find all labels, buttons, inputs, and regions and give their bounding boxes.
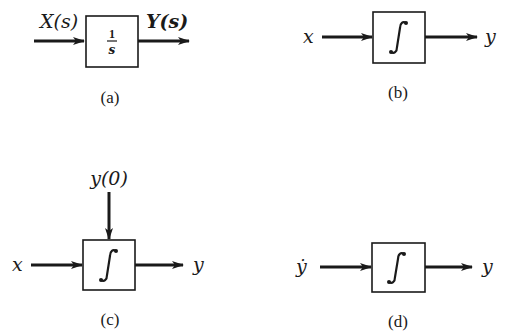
input-label: X(s): [38, 10, 78, 32]
output-label: y: [484, 25, 496, 47]
output-label: y: [481, 255, 493, 277]
output-label: y: [192, 253, 204, 275]
integral-icon: [391, 22, 406, 53]
diagram-d: ẏ y (d): [295, 243, 493, 331]
block-numerator: 1: [109, 27, 115, 41]
diagram-b: x y (b): [303, 12, 496, 102]
caption-c: (c): [101, 310, 120, 329]
initial-condition-label: y(0): [89, 167, 128, 189]
caption-d: (d): [388, 312, 408, 331]
block-diagrams-canvas: X(s) 1 s Y(s) (a) x y (b) y(0) x y (c) ẏ: [0, 0, 525, 331]
block-denominator: s: [109, 43, 116, 57]
caption-b: (b): [388, 83, 408, 102]
diagram-a: X(s) 1 s Y(s) (a): [34, 10, 189, 107]
input-label: ẏ: [295, 255, 307, 277]
integrator-block: [372, 243, 425, 292]
integral-icon: [389, 253, 404, 283]
output-label: Y(s): [146, 10, 188, 32]
caption-a: (a): [101, 88, 120, 107]
integral-icon: [101, 250, 116, 281]
diagram-c: y(0) x y (c): [12, 167, 204, 329]
input-label: x: [303, 25, 314, 47]
input-label: x: [12, 253, 23, 275]
